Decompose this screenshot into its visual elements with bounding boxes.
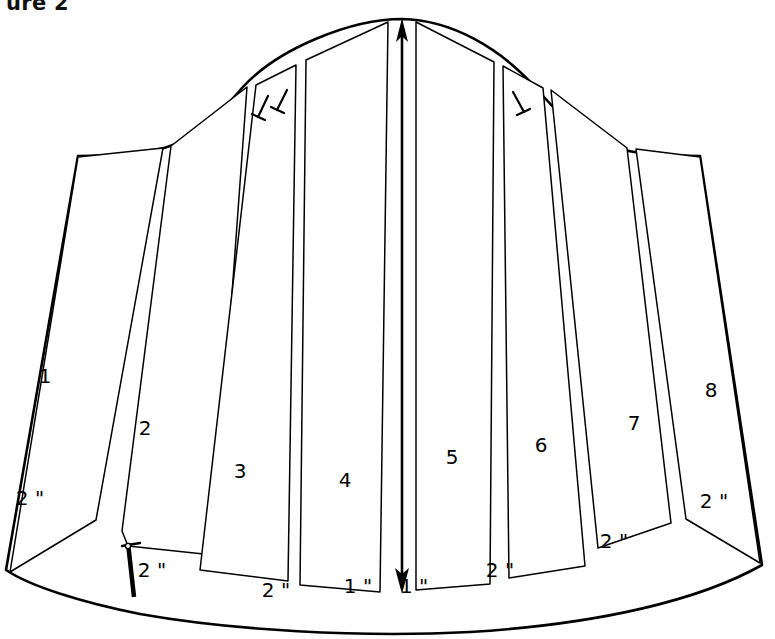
- measurement-label-gap-left-1: 2 ": [16, 486, 44, 510]
- section-label-4: 4: [339, 468, 352, 492]
- section-label-5: 5: [446, 445, 459, 469]
- section-label-3: 3: [234, 459, 247, 483]
- measurement-label-gap-center-right: 1 ": [400, 574, 428, 598]
- measurement-label-gap-left-3: 2 ": [262, 578, 290, 602]
- section-label-7: 7: [628, 411, 641, 435]
- measurement-label-gap-center-left: 1 ": [344, 574, 372, 598]
- measurement-label-gap-left-2: 2 ": [138, 558, 166, 582]
- pattern-diagram: 1 2 3 4 5 6 7 8 2 " 2 " 2 " 1 " 1 " 2 " …: [0, 0, 775, 639]
- figure-caption: ure 2: [6, 0, 69, 15]
- pattern-section-4: [300, 22, 388, 592]
- measurement-label-gap-right-1: 2 ": [700, 489, 728, 513]
- pattern-section-5: [416, 22, 494, 590]
- section-label-8: 8: [705, 378, 718, 402]
- section-label-2: 2: [139, 416, 152, 440]
- measurement-label-gap-right-2: 2 ": [600, 529, 628, 553]
- section-label-1: 1: [39, 364, 52, 388]
- section-label-6: 6: [535, 433, 548, 457]
- measurement-label-gap-right-3: 2 ": [486, 558, 514, 582]
